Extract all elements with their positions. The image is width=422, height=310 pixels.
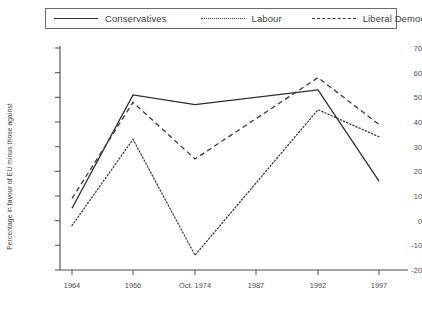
series-line-labour (72, 110, 379, 256)
chart-plot-area (0, 0, 422, 310)
series-line-liberal-democrats (72, 78, 379, 199)
chart-page: Conservatives Labour Liberal Democrats P… (0, 0, 422, 310)
y-tick-marks (55, 48, 60, 270)
x-tick-marks (72, 270, 379, 275)
series-line-conservatives (72, 90, 379, 208)
